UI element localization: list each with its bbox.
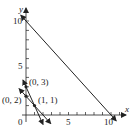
x-ticks [35, 112, 120, 115]
y-axis-label: y [18, 4, 23, 14]
point-label-0-3: (0, 3) [29, 77, 49, 87]
point-label-0-2: (0, 2) [2, 95, 22, 105]
x-axis-label: x [124, 104, 129, 114]
points: (0, 3) (0, 2) (1, 1) [2, 77, 58, 107]
y-tick-label-5: 5 [18, 61, 23, 71]
axes: x y 0 5 10 5 10 [13, 4, 129, 127]
point-1-1 [33, 104, 36, 107]
constraint-lines [19, 15, 116, 124]
y-tick-label-10: 10 [13, 16, 23, 26]
point-0-2 [24, 95, 27, 98]
x-tick-label-5: 5 [66, 117, 71, 127]
point-label-1-1: (1, 1) [38, 95, 58, 105]
graph: x y 0 5 10 5 10 (0, 3) (0, 2) (1, 1) [0, 0, 132, 129]
point-0-3 [24, 85, 27, 88]
origin-label: 0 [18, 117, 23, 127]
x-tick-label-10: 10 [104, 117, 114, 127]
